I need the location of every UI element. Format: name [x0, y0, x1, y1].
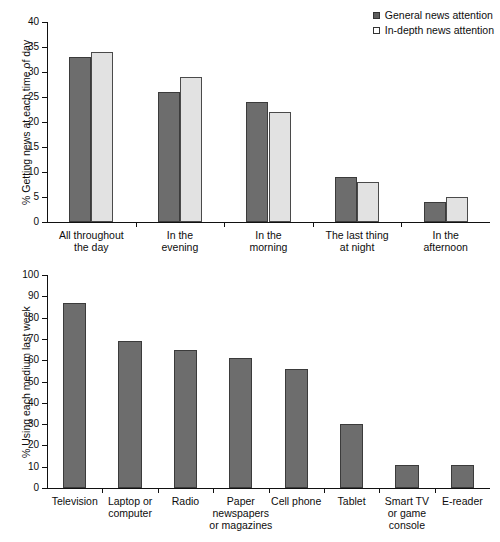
y-axis-tick [42, 97, 47, 98]
y-axis-tick [42, 424, 47, 425]
x-axis-tick [102, 488, 103, 493]
y-axis-line [47, 275, 48, 488]
bar [340, 424, 363, 488]
legend-label-general: General news attention [385, 8, 493, 23]
y-axis-tick-label: 35 [13, 42, 39, 52]
y-axis-tick-label: 20 [13, 440, 39, 450]
bar [285, 369, 308, 488]
y-axis-tick [42, 122, 47, 123]
y-axis-tick [42, 222, 47, 223]
y-axis-tick-label: 20 [13, 117, 39, 127]
x-axis-tick [158, 488, 159, 493]
y-axis-tick [42, 197, 47, 198]
bar [91, 52, 113, 222]
bar [395, 465, 418, 488]
y-axis-tick-label: 70 [13, 334, 39, 344]
y-axis-tick [42, 339, 47, 340]
y-axis-tick-label: 10 [13, 462, 39, 472]
x-axis-tick-label: E-reader [421, 495, 500, 507]
x-axis-tick [324, 488, 325, 493]
x-axis-tick [136, 222, 137, 227]
bar [446, 197, 468, 222]
bar [269, 112, 291, 222]
bar [69, 57, 91, 222]
bar [180, 77, 202, 222]
y-axis-tick [42, 172, 47, 173]
y-axis-tick-label: 30 [13, 67, 39, 77]
y-axis-tick-label: 60 [13, 355, 39, 365]
y-axis-tick [42, 147, 47, 148]
y-axis-tick-label: 25 [13, 92, 39, 102]
x-axis-tick [269, 488, 270, 493]
y-axis-tick [42, 403, 47, 404]
y-axis-tick-label: 0 [13, 483, 39, 493]
y-axis-tick [42, 467, 47, 468]
y-axis-tick-label: 15 [13, 142, 39, 152]
bar [229, 358, 252, 488]
y-axis-tick [42, 296, 47, 297]
y-axis-tick [42, 445, 47, 446]
y-axis-tick [42, 488, 47, 489]
y-axis-tick-label: 30 [13, 419, 39, 429]
bar [335, 177, 357, 222]
y-axis-tick [42, 47, 47, 48]
x-axis-tick [435, 488, 436, 493]
bar [118, 341, 141, 488]
y-axis-tick [42, 318, 47, 319]
y-axis-line [47, 22, 48, 222]
y-axis-tick-label: 50 [13, 377, 39, 387]
bar [357, 182, 379, 222]
plot-area-top: 0510152025303540All throughout the dayIn… [47, 22, 490, 222]
y-axis-tick-label: 40 [13, 17, 39, 27]
bar [63, 303, 86, 488]
dark-square-icon [373, 12, 380, 19]
bar [451, 465, 474, 488]
bar [174, 350, 197, 488]
y-axis-tick-label: 5 [13, 192, 39, 202]
medium-usage-last-week-chart: % Using each medium last week 0102030405… [0, 265, 500, 542]
y-axis-tick-label: 90 [13, 291, 39, 301]
bar [424, 202, 446, 222]
plot-area-bottom: 0102030405060708090100TelevisionLaptop o… [47, 275, 490, 488]
y-axis-tick-label: 0 [13, 217, 39, 227]
bar [158, 92, 180, 222]
y-axis-tick [42, 382, 47, 383]
x-axis-tick [313, 222, 314, 227]
y-axis-tick [42, 72, 47, 73]
x-axis-tick [224, 222, 225, 227]
y-axis-tick-label: 10 [13, 167, 39, 177]
y-axis-tick-label: 40 [13, 398, 39, 408]
news-attention-by-time-of-day-chart: General news attention In-depth news att… [0, 0, 500, 265]
y-axis-tick-label: 100 [13, 270, 39, 280]
y-axis-tick [42, 275, 47, 276]
legend-item-general: General news attention [373, 8, 494, 23]
x-axis-line [47, 222, 490, 223]
y-axis-tick [42, 22, 47, 23]
x-axis-tick [213, 488, 214, 493]
y-axis-tick [42, 360, 47, 361]
x-axis-tick-label: In the afternoon [379, 229, 500, 253]
bar [246, 102, 268, 222]
x-axis-tick [401, 222, 402, 227]
y-axis-tick-label: 80 [13, 313, 39, 323]
x-axis-tick [379, 488, 380, 493]
